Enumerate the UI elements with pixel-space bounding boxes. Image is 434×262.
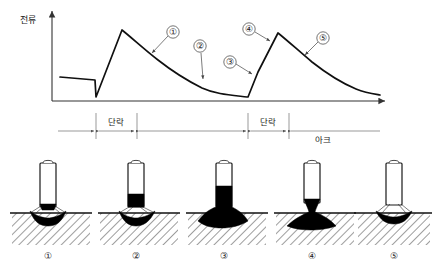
callout-3-leader	[236, 64, 252, 74]
callout-1-label: ①	[169, 27, 177, 37]
callout-2-label: ②	[196, 41, 204, 51]
callout-4-label: ④	[245, 24, 253, 34]
droplet-1	[40, 204, 56, 210]
phase-dimension-bands: 단락 단락 아크	[58, 113, 380, 145]
callout-1-leader	[152, 36, 168, 53]
figure-canvas: 전류 ① ② ③	[0, 0, 434, 262]
chart-callouts: ① ② ③ ④	[152, 23, 329, 79]
stage-diagram-4: ④	[274, 160, 356, 260]
callout-2-leader	[201, 53, 203, 79]
stage-number-5: ⑤	[390, 251, 398, 261]
phase-label-short-1: 단락	[108, 117, 124, 127]
short-circuit-bridge-3	[198, 186, 248, 228]
stage-number-1: ①	[44, 251, 52, 261]
stage-diagram-5: ⑤	[354, 160, 432, 260]
electrode-tip-cavity-1	[43, 160, 53, 163]
y-axis-label: 전류	[20, 15, 36, 25]
callout-3: ③	[224, 56, 252, 74]
callout-4-leader	[255, 32, 270, 41]
callout-4: ④	[243, 23, 270, 41]
callout-1: ①	[152, 26, 179, 53]
waveform-path	[60, 30, 380, 97]
stage-number-2: ②	[132, 251, 140, 261]
welding-current-figure: 전류 ① ② ③	[0, 0, 434, 262]
stage-diagram-1: ①	[10, 160, 92, 260]
electrode-tip-cavity-5	[389, 160, 399, 163]
stage-number-3: ③	[220, 251, 228, 261]
stage-diagram-3: ③	[186, 160, 268, 260]
phase-label-arc: 아크	[315, 135, 331, 145]
electrode-5	[386, 163, 402, 205]
stage-diagram-2: ②	[98, 160, 180, 260]
callout-5: ⑤	[305, 32, 329, 55]
arc-rays-2	[119, 207, 155, 213]
electrode-1	[40, 163, 56, 207]
callout-5-leader	[305, 42, 318, 55]
droplet-attached-2	[128, 194, 144, 207]
phase-label-short-2: 단락	[260, 117, 276, 127]
electrode-tip-cavity-4	[307, 160, 317, 163]
callout-5-label: ⑤	[319, 33, 327, 43]
electrode-4	[304, 163, 320, 203]
electrode-tip-cavity-2	[131, 160, 141, 163]
callout-3-label: ③	[226, 57, 234, 67]
electrode-tip-cavity-3	[219, 160, 229, 163]
current-waveform	[60, 30, 380, 97]
stage-number-4: ④	[308, 251, 316, 261]
callout-2: ②	[194, 40, 206, 79]
